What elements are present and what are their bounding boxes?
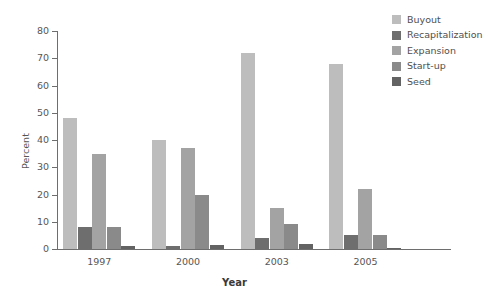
legend-item: Expansion	[392, 45, 483, 56]
y-axis-tick-label: 0	[43, 244, 49, 254]
legend-item: Start-up	[392, 61, 483, 72]
bar	[181, 148, 195, 249]
y-axis-tick-label: 10	[37, 217, 49, 227]
y-axis-tick-mark	[52, 167, 57, 168]
bar	[387, 248, 401, 249]
bar	[107, 227, 121, 249]
y-axis-tick-mark	[52, 195, 57, 196]
bar	[152, 140, 166, 249]
y-axis-tick-mark	[52, 222, 57, 223]
y-axis-tick-mark	[52, 58, 57, 59]
bar	[195, 195, 209, 250]
legend-swatch-icon	[392, 15, 401, 24]
bar	[121, 246, 135, 249]
y-axis-tick-label: 60	[37, 81, 49, 91]
legend-item-label: Recapitalization	[407, 30, 483, 40]
bar	[78, 227, 92, 249]
legend-item-label: Seed	[407, 77, 431, 87]
y-axis-tick-label: 40	[37, 135, 49, 145]
x-axis-tick-label: 2005	[353, 256, 377, 267]
y-axis-tick-label: 50	[37, 108, 49, 118]
chart-legend: BuyoutRecapitalizationExpansionStart-upS…	[392, 14, 483, 87]
bar	[329, 64, 343, 249]
bar	[255, 238, 269, 249]
x-axis-tick-label: 1997	[87, 256, 111, 267]
legend-item-label: Expansion	[407, 46, 456, 56]
legend-swatch-icon	[392, 77, 401, 86]
legend-item-label: Start-up	[407, 61, 446, 71]
legend-item-label: Buyout	[407, 15, 441, 25]
x-axis-tick-label: 2003	[265, 256, 289, 267]
y-axis-tick-label: 80	[37, 26, 49, 36]
y-axis-tick-label: 30	[37, 163, 49, 173]
bar	[270, 208, 284, 249]
x-axis-line	[57, 249, 451, 250]
y-axis-title: Percent	[20, 133, 31, 169]
y-axis-tick-mark	[52, 140, 57, 141]
y-axis-tick-mark	[52, 113, 57, 114]
legend-item: Seed	[392, 76, 483, 87]
x-axis-title: Year	[57, 277, 412, 288]
y-axis-tick-label: 70	[37, 54, 49, 64]
bar	[344, 235, 358, 249]
bar	[63, 118, 77, 249]
bar	[166, 246, 180, 249]
legend-swatch-icon	[392, 62, 401, 71]
bar	[92, 154, 106, 249]
chart-figure: Percent 01020304050607080 19972000200320…	[0, 0, 503, 302]
plot-area: 01020304050607080	[57, 31, 412, 249]
legend-item: Recapitalization	[392, 30, 483, 41]
legend-item: Buyout	[392, 14, 483, 25]
y-axis-tick-mark	[52, 86, 57, 87]
y-axis-tick-label: 20	[37, 190, 49, 200]
y-axis-tick-mark	[52, 31, 57, 32]
bar	[210, 245, 224, 249]
bar	[358, 189, 372, 249]
bar	[299, 244, 313, 249]
bar	[241, 53, 255, 249]
legend-swatch-icon	[392, 31, 401, 40]
bar	[284, 224, 298, 249]
legend-swatch-icon	[392, 46, 401, 55]
y-axis-tick-mark	[52, 249, 57, 250]
bar	[373, 235, 387, 249]
x-axis-tick-label: 2000	[176, 256, 200, 267]
